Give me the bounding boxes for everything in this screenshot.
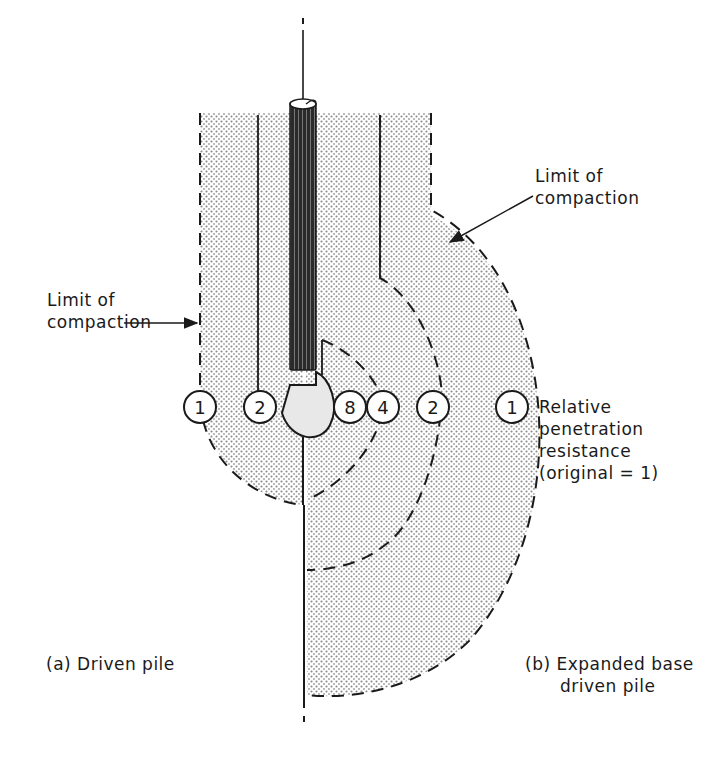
- label-limit-right-2: compaction: [535, 188, 639, 208]
- caption-a: (a) Driven pile: [46, 654, 175, 674]
- legend-line-4: (original = 1): [539, 463, 659, 483]
- label-limit-left-1: Limit of: [47, 290, 115, 310]
- svg-text:2: 2: [254, 397, 265, 418]
- label-limit-right-1: Limit of: [535, 166, 603, 186]
- marker-a-outer: 1: [184, 391, 216, 423]
- legend-line-3: resistance: [539, 441, 631, 461]
- pile-compaction-diagram: 1 2 8 4 2 1 Limit of compaction Limit of…: [0, 0, 725, 769]
- svg-text:4: 4: [377, 397, 388, 418]
- driven-pile-zone: [200, 113, 303, 505]
- arrow-right-limit: [450, 196, 533, 242]
- svg-text:2: 2: [427, 397, 438, 418]
- pile-shaft: [290, 99, 316, 370]
- legend-line-2: penetration: [539, 419, 644, 439]
- marker-b-inner: 8: [334, 391, 366, 423]
- marker-a-inner: 2: [244, 391, 276, 423]
- legend-line-1: Relative: [539, 397, 612, 417]
- svg-text:8: 8: [344, 397, 355, 418]
- marker-b-outer1: 1: [496, 391, 528, 423]
- svg-text:1: 1: [506, 397, 517, 418]
- label-limit-left-2: compaction: [47, 312, 151, 332]
- caption-b-line-1: (b) Expanded base: [525, 654, 694, 674]
- svg-text:1: 1: [194, 397, 205, 418]
- marker-b-mid: 4: [367, 391, 399, 423]
- marker-b-outer2: 2: [417, 391, 449, 423]
- caption-b-line-2: driven pile: [560, 676, 655, 696]
